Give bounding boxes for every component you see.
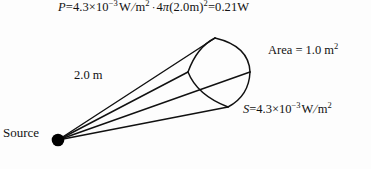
patch-edge-top-left — [188, 38, 215, 72]
area-label-name: Area — [268, 43, 292, 57]
power-radius-value: 2.0 — [173, 0, 189, 14]
power-equals-2: = — [208, 0, 215, 14]
power-radius-unit: m — [189, 0, 199, 14]
power-intensity-value: 4.3 — [73, 0, 89, 14]
power-equals: = — [66, 0, 73, 14]
ray-to-left-corner — [58, 72, 188, 140]
intensity-unit-denominator: m — [318, 102, 328, 116]
source-label: Source — [3, 126, 39, 140]
distance-label: 2.0 m — [74, 69, 102, 82]
intensity-times: × — [272, 102, 279, 116]
intensity-unit-denominator-exponent: 2 — [328, 100, 332, 110]
patch-edge-left-bottom — [188, 72, 228, 107]
area-label-unit: m — [324, 43, 334, 57]
intensity-unit: W/m2 — [301, 103, 333, 116]
power-result-unit: W — [237, 0, 249, 14]
power-result-value: 0.21 — [215, 0, 237, 14]
intensity-value: 4.3 — [256, 102, 272, 116]
power-equation: P=4.3×10−3W/m2·4π(2.0m)2=0.21W — [58, 1, 249, 14]
power-ten: 10 — [96, 0, 109, 14]
distance-label-value: 2.0 — [74, 68, 90, 82]
power-intensity-exponent: −3 — [109, 0, 118, 8]
figure-canvas: P=4.3×10−3W/m2·4π(2.0m)2=0.21W Area = 1.… — [0, 0, 371, 169]
distance-label-unit: m — [93, 68, 103, 82]
power-times: × — [89, 0, 96, 14]
intensity-equation: S=4.3×10−3W/m2 — [243, 103, 333, 116]
area-label-equals: = — [295, 43, 302, 57]
intensity-exponent: −3 — [292, 100, 301, 110]
power-symbol: P — [58, 0, 66, 14]
ray-to-right-corner — [58, 72, 250, 140]
area-label-value: 1.0 — [306, 43, 322, 57]
power-intensity-unit: W/m2 — [118, 1, 151, 14]
area-label-unit-exponent: 2 — [334, 41, 338, 51]
source-point-dot — [52, 134, 65, 147]
area-label: Area = 1.0 m2 — [268, 44, 338, 57]
power-unit-denominator-exponent: 2 — [145, 0, 149, 8]
intensity-ten: 10 — [279, 102, 292, 116]
point-source-cone-figure — [0, 0, 371, 169]
patch-edge-top-right — [215, 38, 250, 72]
